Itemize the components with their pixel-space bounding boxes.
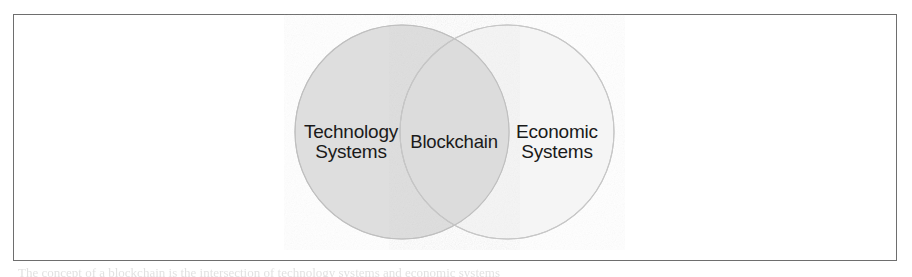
cropped-caption-text: The concept of a blockchain is the inter… [18,266,886,277]
venn-label-right-line1: Economic [516,121,598,142]
venn-label-intersection: Blockchain [410,131,497,152]
venn-label-left-line2: Systems [315,141,386,162]
venn-label-right-line2: Systems [521,141,592,162]
figure-root: Technology Systems Blockchain Economic S… [0,0,912,277]
venn-label-left-line1: Technology [304,121,399,142]
venn-diagram-canvas: Technology Systems Blockchain Economic S… [0,0,912,277]
